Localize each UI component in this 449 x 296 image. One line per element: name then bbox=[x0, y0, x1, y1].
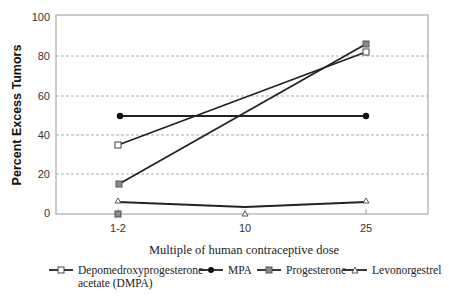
svg-text:100: 100 bbox=[32, 11, 50, 23]
line-chart: 100 80 60 40 20 0 1-2 10 25 Percent Exce… bbox=[0, 0, 449, 260]
legend-label-mpa: MPA bbox=[228, 264, 252, 277]
svg-text:0: 0 bbox=[44, 207, 50, 219]
legend-label-dmpa-line2: acetate (DMPA) bbox=[78, 277, 203, 290]
legend-item-mpa: MPA bbox=[198, 264, 252, 277]
x-axis-label: Multiple of human contraceptive dose bbox=[149, 243, 340, 257]
legend-label-dmpa-line1: Depomedroxyprogesterone bbox=[78, 264, 203, 277]
svg-text:10: 10 bbox=[239, 222, 251, 234]
svg-text:20: 20 bbox=[38, 168, 50, 180]
gray-square-marker-icon bbox=[256, 264, 282, 276]
legend-item-dmpa: Depomedroxyprogesterone acetate (DMPA) bbox=[48, 264, 203, 290]
y-axis-ticks: 100 80 60 40 20 0 bbox=[32, 11, 50, 219]
y-axis-label: Percent Excess Tumors bbox=[10, 45, 24, 186]
legend-item-levonorgestrel: Levonorgestrel bbox=[342, 264, 441, 277]
svg-text:25: 25 bbox=[360, 222, 372, 234]
legend-label-progesterone: Progesterone bbox=[286, 264, 346, 277]
open-square-marker-icon bbox=[48, 264, 74, 276]
filled-circle-marker-icon bbox=[198, 264, 224, 276]
legend-item-progesterone: Progesterone bbox=[256, 264, 346, 277]
svg-text:1-2: 1-2 bbox=[110, 222, 126, 234]
svg-text:40: 40 bbox=[38, 129, 50, 141]
open-triangle-marker-icon bbox=[342, 264, 368, 276]
svg-text:80: 80 bbox=[38, 50, 50, 62]
x-axis-ticks: 1-2 10 25 bbox=[110, 222, 372, 234]
svg-text:60: 60 bbox=[38, 90, 50, 102]
legend-label-levonorgestrel: Levonorgestrel bbox=[372, 264, 441, 277]
